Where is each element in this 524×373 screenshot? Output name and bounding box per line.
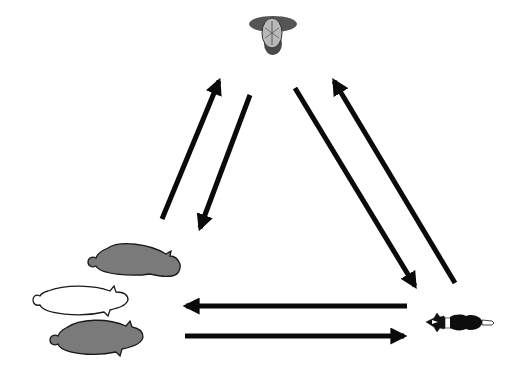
farmer-icon [249, 16, 297, 55]
sheep-gray-bottom-icon [50, 320, 143, 356]
sheepdog-icon [426, 313, 494, 332]
sheep-white-icon [33, 286, 128, 316]
diagram-canvas [0, 0, 524, 373]
sheep-gray-top-icon [88, 244, 180, 277]
